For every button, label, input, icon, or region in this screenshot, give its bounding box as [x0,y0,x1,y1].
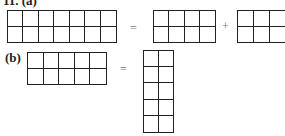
grid-cell [75,69,91,85]
grid-cell [159,51,174,67]
equals-sign-a: = [130,22,137,34]
grid-cell [23,27,38,43]
grid-cell [200,27,215,43]
grid-cell [159,116,174,132]
grid-cell [238,11,254,27]
grid-cell [144,51,159,67]
grid-cell [70,11,85,27]
grid-cell [75,53,91,69]
grid-cell [101,11,116,27]
grid-cell [54,11,69,27]
grid-a-left [7,10,117,43]
grid-b-left [27,52,107,85]
grid-cell [85,11,100,27]
grid-cell [54,27,69,43]
part-b-label: (b) [5,51,21,64]
grid-cell [101,27,116,43]
grid-cell [39,27,54,43]
grid-cell [44,53,60,69]
grid-cell [154,11,169,27]
grid-cell [70,27,85,43]
grid-cell [238,27,254,43]
grid-cell [159,100,174,116]
grid-cell [200,11,215,27]
grid-cell [44,69,60,85]
grid-cell [8,11,23,27]
grid-cell [39,11,54,27]
grid-cell [144,100,159,116]
equals-sign-b: = [120,63,127,75]
grid-cell [154,27,169,43]
grid-cell [59,53,75,69]
grid-b-right [143,50,174,133]
grid-cell [23,11,38,27]
grid-cell [59,69,75,85]
grid-cell [159,83,174,99]
grid-cell [8,27,23,43]
grid-cell [159,67,174,83]
grid-cell [270,27,285,43]
grid-cell [85,27,100,43]
grid-cell [144,67,159,83]
grid-a-right1 [153,10,216,43]
grid-cell [90,69,106,85]
grid-cell [185,11,200,27]
grid-cell [169,11,184,27]
grid-cell [28,69,44,85]
grid-cell [144,116,159,132]
grid-cell [270,11,285,27]
grid-cell [169,27,184,43]
grid-cell [90,53,106,69]
grid-cell [144,83,159,99]
problem-number-label: 11. (a) [3,0,37,7]
plus-sign-a: + [222,20,229,32]
grid-cell [28,53,44,69]
grid-cell [254,27,270,43]
grid-a-right2 [237,10,285,43]
grid-cell [185,27,200,43]
grid-cell [254,11,270,27]
